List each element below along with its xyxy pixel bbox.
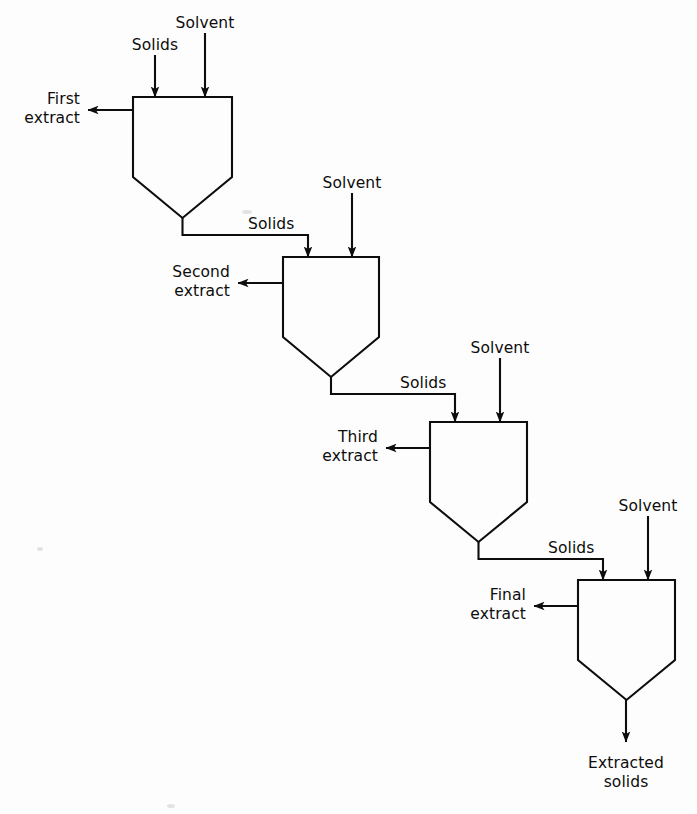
extraction-vessel-2[interactable] [283,257,379,377]
stage-3-solvent-inlet-label: Solvent [471,339,530,357]
stage-2-solvent-inlet-label: Solvent [323,174,382,192]
extraction-vessel-1[interactable] [133,97,232,218]
stage-3-group: Solvent Third extract Solids [322,339,603,580]
stage-1-solids-outlet-label: Solids [248,215,294,233]
flowsheet-canvas: Solids Solvent First extract Solids Solv… [0,0,697,814]
stage-4-extract-label-line1: Final [490,586,526,604]
extraction-vessel-3[interactable] [430,422,527,542]
stage-1-extract-label-line2: extract [24,109,80,127]
stage-1-extract-label-line1: First [47,90,80,108]
stage-1-solvent-inlet-label: Solvent [176,14,235,32]
stage-2-group: Solvent Second extract Solids [172,174,455,422]
stage-1-solids-inlet-label: Solids [132,36,178,54]
stage-2-solids-outlet-label: Solids [400,374,446,392]
final-solids-label-line2: solids [604,773,649,791]
stage-1-group: Solids Solvent First extract Solids [24,14,308,257]
stage-3-solids-outlet-label: Solids [548,539,594,557]
stage-4-extract-label-line2: extract [470,605,526,623]
stage-4-solvent-inlet-label: Solvent [619,497,678,515]
extraction-vessel-4[interactable] [578,580,675,700]
process-flow-diagram: Solids Solvent First extract Solids Solv… [0,0,697,814]
final-solids-label-line1: Extracted [588,754,664,772]
stage-2-extract-label-line1: Second [172,263,230,281]
stage-2-extract-label-line2: extract [174,282,230,300]
stage-3-extract-label-line2: extract [322,447,378,465]
stage-3-extract-label-line1: Third [337,428,378,446]
